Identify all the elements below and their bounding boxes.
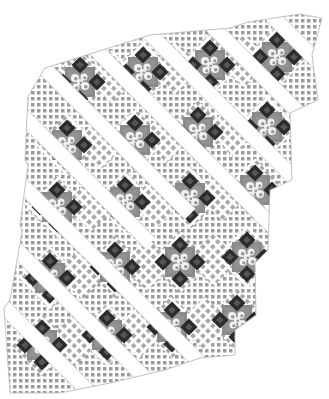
- quilt-illustration: [0, 0, 329, 399]
- quilt-body: [0, 0, 329, 393]
